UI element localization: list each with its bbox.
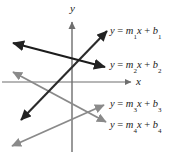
m3-m-sub: 3 <box>133 106 137 114</box>
line-m3 <box>12 105 104 146</box>
coordinate-plane-svg <box>0 0 180 157</box>
m4-y: y <box>110 119 115 130</box>
m4-plus: + <box>144 119 150 130</box>
m2-b-sub: 2 <box>158 67 162 75</box>
line-label-m4: y = m4x + b4 <box>110 120 162 131</box>
m3-y: y <box>110 98 115 109</box>
m3-plus: + <box>144 98 150 109</box>
m4-eq: = <box>117 119 123 130</box>
m1-eq: = <box>117 25 123 36</box>
line-graph-figure: y x y = m1x + b1 y = m2x + b2 y = m3x + … <box>0 0 180 157</box>
line-label-m3: y = m3x + b3 <box>110 99 162 110</box>
m2-eq: = <box>117 59 123 70</box>
m1-plus: + <box>144 25 150 36</box>
m2-plus: + <box>144 59 150 70</box>
m2-y: y <box>110 59 115 70</box>
m3-eq: = <box>117 98 123 109</box>
m4-m-sub: 4 <box>133 127 137 135</box>
m1-y: y <box>110 25 115 36</box>
m3-x: x <box>137 98 142 109</box>
x-axis-label: x <box>136 76 141 87</box>
line-label-m1: y = m1x + b1 <box>110 26 162 37</box>
m2-x: x <box>137 59 142 70</box>
line-label-m2: y = m2x + b2 <box>110 60 162 71</box>
m2-m-sub: 2 <box>133 67 137 75</box>
line-m1 <box>21 31 107 120</box>
m4-b-sub: 4 <box>158 127 162 135</box>
m1-m-sub: 1 <box>133 33 137 41</box>
m1-b-sub: 1 <box>158 33 162 41</box>
m3-b-sub: 3 <box>158 106 162 114</box>
m4-x: x <box>137 119 142 130</box>
y-axis-label: y <box>70 3 75 14</box>
m1-x: x <box>137 25 142 36</box>
